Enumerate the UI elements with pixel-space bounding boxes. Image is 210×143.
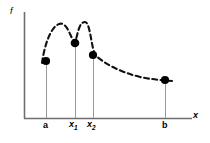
point-a [42, 57, 50, 65]
tick-label-b-text: b [162, 120, 168, 130]
tick-label-a: a [43, 121, 48, 130]
plot-canvas [0, 0, 210, 143]
point-x1 [71, 39, 80, 48]
function-plot-figure: f x a x1 x2 b [0, 0, 210, 143]
tick-label-a-text: a [43, 120, 48, 130]
point-x2 [89, 51, 97, 59]
tick-label-b: b [162, 121, 168, 130]
function-curve [42, 22, 172, 81]
drop-lines-group [47, 43, 166, 118]
y-axis-label: f [10, 7, 13, 16]
tick-label-x1: x1 [69, 120, 78, 131]
point-b [161, 76, 169, 84]
tick-label-x2-subscript: 2 [92, 124, 96, 131]
tick-label-x2: x2 [87, 120, 96, 131]
data-points-group [42, 39, 169, 84]
x-axis-label: x [193, 111, 198, 120]
tick-label-x1-subscript: 1 [74, 124, 78, 131]
